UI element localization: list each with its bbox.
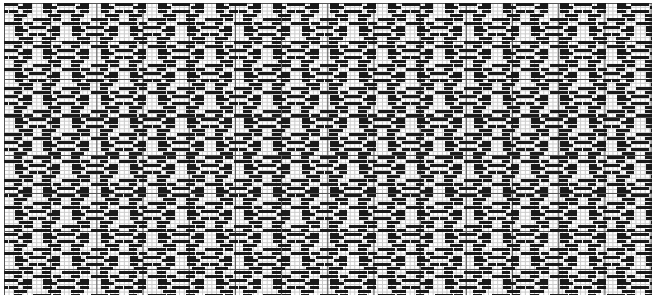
pattern-cell	[53, 156, 62, 159]
pattern-cell	[196, 160, 205, 163]
pattern-cell	[186, 91, 195, 94]
pattern-cell	[589, 167, 602, 170]
pattern-cell	[325, 263, 334, 266]
pattern-cell	[340, 294, 349, 295]
pattern-cell	[81, 87, 90, 90]
pattern-cell	[24, 87, 33, 90]
pattern-cell	[43, 141, 52, 144]
pattern-cell	[243, 18, 252, 21]
pattern-cell	[133, 236, 146, 239]
pattern-cell	[302, 167, 315, 170]
pattern-cell	[195, 286, 204, 289]
pattern-cell	[626, 33, 635, 36]
pattern-cell	[364, 221, 377, 224]
pattern-cell	[139, 133, 148, 136]
pattern-cell	[71, 248, 80, 251]
pattern-cell	[23, 56, 32, 59]
pattern-cell	[540, 102, 549, 105]
pattern-cell	[454, 183, 463, 186]
pattern-cell	[359, 167, 372, 170]
pattern-cell	[511, 33, 520, 36]
pattern-cell	[506, 213, 519, 216]
pattern-cell	[474, 210, 483, 213]
pattern-cell	[24, 41, 33, 44]
pattern-cell	[444, 22, 453, 25]
pattern-cell	[52, 72, 61, 75]
pattern-cell	[588, 137, 597, 140]
pattern-cell	[43, 282, 56, 285]
pattern-cell	[172, 10, 181, 13]
pattern-cell	[607, 275, 625, 278]
pattern-cell	[273, 6, 286, 9]
pattern-cell	[541, 41, 550, 44]
pattern-cell	[646, 164, 652, 167]
pattern-cell	[186, 137, 195, 140]
pattern-cell	[550, 137, 568, 140]
pattern-cell	[540, 95, 549, 98]
pattern-cell	[254, 114, 263, 117]
pattern-cell	[115, 148, 124, 151]
pattern-cell	[473, 152, 486, 155]
pattern-cell	[507, 290, 520, 293]
pattern-cell	[253, 3, 262, 6]
pattern-cell	[574, 233, 592, 236]
pattern-cell	[388, 6, 401, 9]
pattern-cell	[305, 52, 318, 55]
pattern-cell	[134, 37, 147, 40]
pattern-cell	[243, 60, 256, 63]
pattern-cell	[19, 175, 32, 178]
pattern-cell	[172, 95, 190, 98]
pattern-cell	[521, 41, 539, 44]
pattern-cell	[454, 18, 463, 21]
pattern-cell	[650, 282, 652, 285]
pattern-cell	[550, 294, 568, 295]
pattern-cell	[291, 133, 309, 136]
pattern-cell	[406, 160, 424, 163]
pattern-cell	[225, 294, 234, 295]
pattern-cell	[143, 118, 161, 121]
pattern-cell	[253, 49, 262, 52]
pattern-cell	[325, 79, 334, 82]
pattern-cell	[301, 45, 310, 48]
pattern-cell	[72, 29, 85, 32]
pattern-cell	[249, 175, 262, 178]
pattern-cell	[607, 183, 625, 186]
pattern-cell	[129, 45, 138, 48]
pattern-cell	[15, 29, 28, 32]
pattern-cell	[512, 248, 521, 251]
pattern-cell	[474, 72, 483, 75]
pattern-cell	[417, 213, 430, 216]
pattern-cell	[273, 141, 282, 144]
pattern-cell	[229, 141, 247, 144]
pattern-cell	[76, 6, 89, 9]
pattern-cell	[229, 286, 238, 289]
pattern-cell	[166, 263, 175, 266]
pattern-cell	[81, 160, 90, 163]
pattern-cell	[397, 91, 406, 94]
pattern-cell	[503, 190, 516, 193]
pattern-cell	[157, 160, 166, 163]
pattern-cell	[91, 183, 109, 186]
pattern-cell	[626, 210, 635, 213]
pattern-cell	[244, 72, 253, 75]
pattern-cell	[450, 198, 463, 201]
pattern-cell	[239, 286, 248, 289]
pattern-cell	[130, 118, 139, 121]
pattern-cell	[426, 87, 435, 90]
pattern-cell	[640, 56, 649, 59]
pattern-cell	[636, 22, 652, 25]
pattern-cell	[531, 75, 544, 78]
pattern-cell	[201, 33, 210, 36]
pattern-cell	[71, 45, 80, 48]
pattern-cell	[593, 83, 606, 86]
pattern-cell	[646, 33, 652, 36]
pattern-cell	[224, 217, 233, 220]
pattern-cell	[588, 294, 597, 295]
pattern-cell	[187, 217, 196, 220]
pattern-cell	[192, 267, 205, 270]
pattern-cell	[521, 179, 539, 182]
pattern-cell	[449, 121, 462, 124]
pattern-cell	[19, 129, 32, 132]
pattern-cell	[597, 141, 606, 144]
pattern-cell	[388, 187, 397, 190]
